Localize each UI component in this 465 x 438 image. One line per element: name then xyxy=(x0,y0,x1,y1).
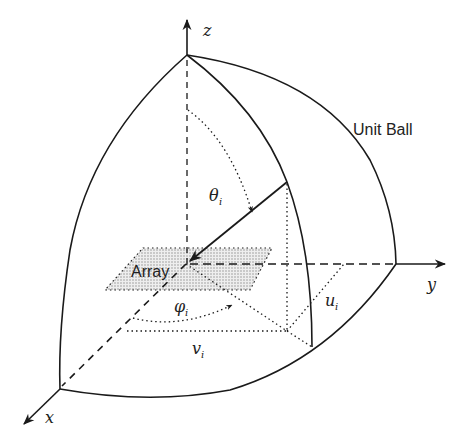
unit-ball-diagram: z y x Unit Ball Array θ i φ i u i v i xyxy=(0,0,465,438)
v-label: v i xyxy=(192,339,204,360)
x-axis-label: x xyxy=(45,408,54,427)
projection-to-meridian xyxy=(287,331,312,347)
u-label: u i xyxy=(325,291,338,312)
x-axis-arrow xyxy=(24,389,60,424)
svg-text:i: i xyxy=(335,301,338,312)
theta-label: θ i xyxy=(209,186,222,207)
svg-text:v: v xyxy=(192,339,201,358)
svg-text:u: u xyxy=(325,291,335,310)
phi-label: φ i xyxy=(174,297,188,318)
array-label: Array xyxy=(131,263,169,280)
svg-text:i: i xyxy=(185,307,188,318)
svg-text:i: i xyxy=(201,349,204,360)
sphere-outline-left xyxy=(60,55,187,389)
meridian-arc xyxy=(187,55,312,347)
y-axis-label: y xyxy=(426,275,437,294)
sphere-outline-right xyxy=(187,55,396,264)
svg-text:θ: θ xyxy=(209,186,219,205)
unit-ball-label: Unit Ball xyxy=(353,121,413,138)
z-axis-label: z xyxy=(202,21,212,40)
u-component-line xyxy=(287,264,344,331)
svg-text:i: i xyxy=(219,196,222,207)
